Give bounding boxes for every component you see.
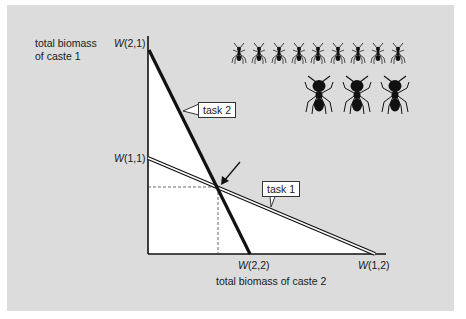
tick-w11: W(1,1)	[114, 152, 146, 164]
small-ant-icon	[272, 43, 286, 64]
y-axis-label-line-1: total biomass	[35, 37, 97, 50]
large-ant-icon	[381, 76, 409, 114]
task-2-callout-pointer	[183, 104, 199, 115]
small-ant-icon	[331, 43, 345, 64]
tick-w22: W(2,2)	[238, 259, 270, 271]
small-ant-icon	[311, 43, 325, 64]
large-ants-caste-2	[305, 76, 409, 114]
small-ant-icon	[391, 43, 405, 64]
task-2-callout: task 2	[198, 102, 236, 118]
tick-w12: W(1,2)	[358, 259, 390, 271]
small-ant-icon	[371, 43, 385, 64]
small-ant-icon	[292, 43, 306, 64]
small-ant-icon	[232, 43, 246, 64]
large-ant-icon	[305, 76, 333, 114]
tick-w21: W(2,1)	[114, 37, 146, 49]
x-axis-label: total biomass of caste 2	[216, 275, 326, 288]
task-1-callout: task 1	[262, 181, 300, 197]
small-ant-icon	[252, 43, 266, 64]
intersection-arrow-icon	[221, 162, 240, 185]
y-axis-label-line-2: of caste 1	[35, 50, 97, 63]
small-ants-caste-1	[232, 43, 405, 64]
y-axis-label: total biomass of caste 1	[35, 37, 97, 63]
small-ant-icon	[351, 43, 365, 64]
large-ant-icon	[343, 76, 371, 114]
feasible-region	[148, 50, 375, 254]
